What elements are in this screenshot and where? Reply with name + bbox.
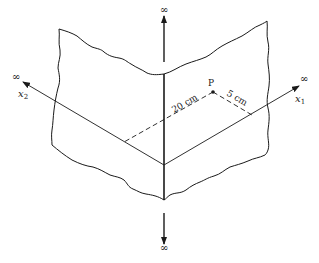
diagram-canvas: P 20 cm 5 cm ∞ ∞ ∞ ∞ x1 x2 bbox=[0, 0, 319, 263]
dimension-label-20cm: 20 cm bbox=[170, 92, 200, 115]
dashed-line-to-x2-axis bbox=[124, 92, 213, 142]
left-plane-bottom-edge bbox=[52, 145, 164, 200]
infinity-x2: ∞ bbox=[12, 71, 20, 82]
left-plane-top-edge bbox=[59, 29, 164, 75]
x1-axis-label: x1 bbox=[295, 93, 305, 106]
infinity-top: ∞ bbox=[160, 4, 168, 15]
x2-axis-label: x2 bbox=[18, 88, 28, 101]
x2-axis bbox=[23, 82, 164, 165]
infinity-bottom: ∞ bbox=[160, 242, 168, 253]
right-plane-top-edge bbox=[164, 21, 267, 74]
left-plane-left-edge bbox=[52, 29, 61, 145]
x1-axis-subscript: 1 bbox=[301, 98, 305, 106]
point-p-label: P bbox=[208, 78, 214, 88]
left-plane bbox=[52, 29, 164, 200]
infinity-x1: ∞ bbox=[300, 73, 308, 84]
right-plane-right-edge bbox=[265, 21, 269, 155]
right-plane-bottom-edge bbox=[164, 155, 265, 200]
dimension-label-5cm: 5 cm bbox=[225, 88, 250, 108]
point-p-marker bbox=[211, 90, 215, 94]
x2-axis-subscript: 2 bbox=[24, 93, 28, 101]
